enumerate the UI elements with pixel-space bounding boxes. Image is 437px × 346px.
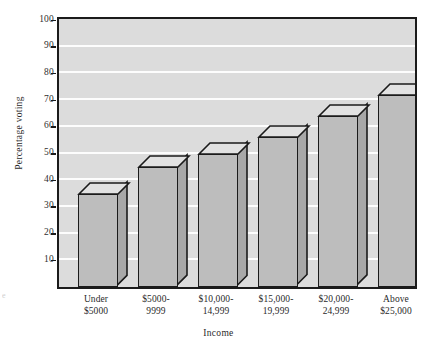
gridline [59, 45, 415, 47]
x-axis-tick-label: $15,000-19,999 [243, 294, 309, 317]
bar-front-face [138, 167, 178, 287]
y-axis-tick-mark [51, 20, 56, 22]
x-axis-tick-label: $20,000-24,999 [303, 294, 369, 317]
y-axis-tick-label: 70 [14, 95, 54, 105]
y-axis-tick-mark [51, 73, 56, 75]
x-axis-tick-label: Above$25,000 [363, 294, 429, 317]
y-axis-tick-mark [51, 233, 56, 235]
y-axis-tick-label: 50 [14, 148, 54, 158]
y-axis-tick-mark [51, 260, 56, 262]
page-edge-artifact: e [2, 291, 9, 300]
bar[interactable] [198, 143, 238, 288]
gridline [59, 98, 415, 100]
plot-area [57, 17, 417, 289]
y-axis-tick-mark [51, 153, 56, 155]
bar[interactable] [318, 105, 358, 287]
bar[interactable] [258, 126, 298, 287]
x-axis-tick-label: $10,000-14,999 [183, 294, 249, 317]
bar[interactable] [138, 156, 178, 287]
bar-side-face [416, 82, 417, 287]
bar[interactable] [378, 84, 417, 287]
y-axis-tick-mark [51, 206, 56, 208]
y-axis-tick-label: 20 [14, 228, 54, 238]
y-axis-tick-label: 100 [14, 15, 54, 25]
y-axis-tick-mark [51, 126, 56, 128]
gridline [59, 71, 415, 73]
x-axis-tick-label: $5000-9999 [123, 294, 189, 317]
y-axis-tick-mark [51, 100, 56, 102]
bar-front-face [258, 137, 298, 287]
x-axis-tick-label: Under$5000 [63, 294, 129, 317]
y-axis-tick-label: 60 [14, 121, 54, 131]
y-axis-tick-label: 90 [14, 41, 54, 51]
y-axis-tick-label: 10 [14, 255, 54, 265]
y-axis-tick-label: 40 [14, 175, 54, 185]
bar-front-face [378, 95, 417, 287]
bar-chart-figure: Percentage voting 100908070605040302010 … [0, 0, 437, 346]
x-axis-title: Income [0, 328, 437, 338]
bar-front-face [198, 154, 238, 288]
bar-front-face [318, 116, 358, 287]
bar-front-face [78, 194, 118, 287]
y-axis-tick-label: 80 [14, 68, 54, 78]
y-axis-tick-label: 30 [14, 201, 54, 211]
y-axis-tick-mark [51, 180, 56, 182]
y-axis-tick-mark [51, 46, 56, 48]
bar[interactable] [78, 183, 118, 287]
